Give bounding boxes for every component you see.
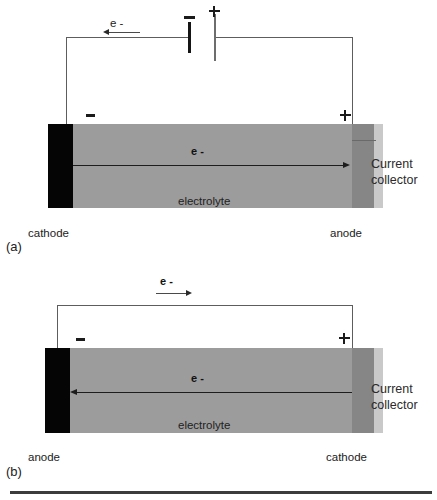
panel-a-charging-diagram: e - e - electrolyte cathode anode Curren…	[0, 0, 437, 255]
panel-a-electrolyte-label: electrolyte	[178, 195, 230, 209]
panel-a-cathode-block	[48, 124, 73, 208]
panel-b-right-terminal-sign	[339, 333, 350, 344]
panel-a-current-collector-line2: collector	[371, 172, 418, 188]
panel-a-internal-arrow-head	[343, 162, 350, 168]
panel-b-internal-electron-label: e -	[191, 372, 204, 385]
wire-top-right-segment	[216, 37, 352, 38]
wire-left-vertical	[66, 37, 67, 127]
panel-a-left-terminal-sign	[86, 114, 95, 117]
panel-a-current-collector-label: Current collector	[371, 156, 418, 188]
battery-negative-sign	[184, 16, 195, 19]
battery-negative-plate	[188, 22, 191, 53]
panel-b-right-electrode-label: cathode	[326, 451, 367, 465]
panel-a-right-electrode-label: anode	[330, 227, 362, 241]
panel-b-wire-right-vertical	[352, 305, 353, 348]
panel-b-current-collector-line2: collector	[371, 397, 418, 413]
panel-a-caption: (a)	[6, 239, 22, 254]
battery-positive-plate	[214, 14, 216, 61]
panel-a-current-collector-line1: Current	[371, 156, 418, 172]
panel-b-left-terminal-sign	[76, 338, 85, 341]
panel-a-external-electron-label: e -	[110, 17, 123, 31]
panel-a-internal-electron-label: e -	[191, 145, 204, 158]
panel-b-wire-top	[57, 305, 353, 306]
bottom-divider-rule	[10, 491, 432, 494]
panel-b-left-electrode-label: anode	[28, 451, 60, 465]
wire-top-left-segment	[66, 37, 188, 38]
panel-b-electrolyte-label: electrolyte	[178, 419, 230, 433]
panel-b-current-collector-label: Current collector	[371, 381, 418, 413]
panel-b-anode-block	[45, 348, 70, 433]
panel-b-current-collector-line1: Current	[371, 381, 418, 397]
panel-a-collector-divider	[352, 140, 376, 141]
panel-a-external-arrow-line	[107, 32, 140, 33]
panel-a-left-electrode-label: cathode	[28, 227, 69, 241]
wire-right-vertical	[352, 37, 353, 127]
panel-b-internal-arrow-line	[76, 392, 352, 393]
panel-a-internal-arrow-line	[73, 165, 345, 166]
panel-b-caption: (b)	[6, 464, 22, 479]
panel-b-external-arrow-head	[186, 290, 192, 296]
panel-b-discharging-diagram: e - e - electrolyte anode cathode Curren…	[0, 255, 437, 500]
panel-b-external-arrow-line	[156, 293, 188, 294]
panel-b-external-electron-label: e -	[160, 275, 173, 288]
panel-a-right-terminal-sign	[340, 110, 351, 121]
panel-a-external-arrow-head	[103, 29, 109, 35]
panel-b-internal-arrow-head	[70, 389, 77, 395]
panel-b-wire-left-vertical	[57, 305, 58, 348]
battery-positive-sign	[209, 6, 220, 17]
